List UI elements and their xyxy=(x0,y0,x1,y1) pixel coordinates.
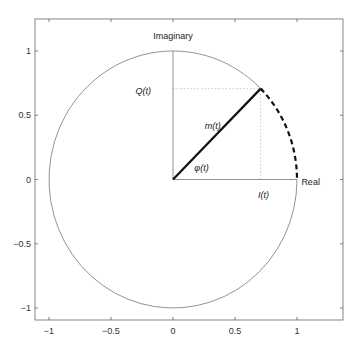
label-I: I(t) xyxy=(258,190,269,200)
x-tick-label: 1 xyxy=(294,326,299,336)
x-tick-label: −0.5 xyxy=(102,326,120,336)
diagram-annotations: ImaginaryRealQ(t)m(t)φ(t)I(t) xyxy=(135,31,319,200)
dashed-phase-arc xyxy=(261,89,297,180)
label-phi: φ(t) xyxy=(194,163,208,173)
y-tick-label: 0 xyxy=(26,175,31,185)
y-tick-label: 1 xyxy=(26,46,31,56)
label-real: Real xyxy=(301,177,320,187)
phasor-m-line xyxy=(173,89,261,180)
axis-tick-labels: −1−0.500.51−1−0.500.51 xyxy=(13,46,299,336)
axes-frame xyxy=(35,19,343,320)
y-tick-label: −1 xyxy=(21,303,31,313)
y-tick-label: −0.5 xyxy=(13,239,31,249)
axis-ticks xyxy=(35,19,343,320)
x-tick-label: 0 xyxy=(170,326,175,336)
x-tick-label: −1 xyxy=(44,326,54,336)
label-m: m(t) xyxy=(205,121,221,131)
y-tick-label: 0.5 xyxy=(18,110,31,120)
iq-phasor-diagram: −1−0.500.51−1−0.500.51 ImaginaryRealQ(t)… xyxy=(0,0,360,352)
axes-box xyxy=(35,19,343,320)
label-imaginary: Imaginary xyxy=(153,31,193,41)
diagram-elements xyxy=(49,51,297,308)
label-Q: Q(t) xyxy=(135,86,151,96)
x-tick-label: 0.5 xyxy=(229,326,242,336)
